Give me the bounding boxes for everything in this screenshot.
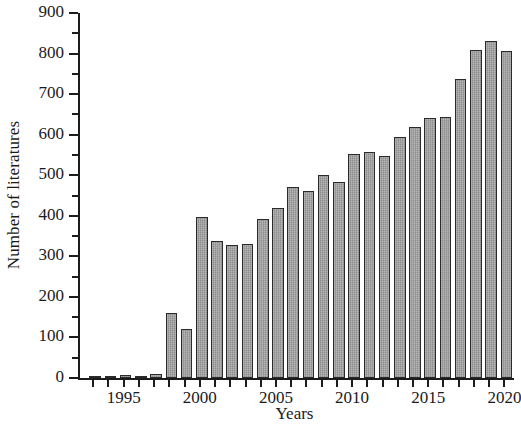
bar-2015 xyxy=(424,118,436,378)
x-axis-tick-2016 xyxy=(442,380,444,387)
x-axis-tick-2006 xyxy=(290,380,292,387)
y-axis-tick-400: 400 xyxy=(69,215,78,217)
y-axis-tick-300: 300 xyxy=(69,255,78,257)
y-axis-tick-label: 600 xyxy=(39,125,65,142)
x-axis-tick-2004 xyxy=(260,380,262,387)
y-axis-tick-label: 500 xyxy=(39,165,65,182)
x-axis-tick-2007 xyxy=(305,380,307,387)
y-axis-tick-label: 900 xyxy=(39,3,65,20)
bar-1998 xyxy=(166,313,178,378)
y-axis-tick-800: 800 xyxy=(69,53,78,55)
x-axis-line xyxy=(78,378,514,380)
bar-1995 xyxy=(120,375,132,378)
y-axis-title: Number of literatures xyxy=(0,0,28,390)
bar-1993 xyxy=(89,376,101,379)
bar-2002 xyxy=(226,245,238,378)
x-axis-title: Years xyxy=(75,404,514,424)
bar-1999 xyxy=(181,329,193,378)
bar-series xyxy=(80,13,514,378)
x-axis-tick-2019 xyxy=(488,380,490,387)
x-axis-tick-1999 xyxy=(184,380,186,387)
x-axis-tick-2020 xyxy=(503,380,505,387)
y-axis-tick-label: 0 xyxy=(56,368,65,385)
x-axis-tick-1993 xyxy=(92,380,94,387)
bar-2011 xyxy=(364,152,376,378)
x-axis-tick-2001 xyxy=(214,380,216,387)
y-axis-tick-200: 200 xyxy=(69,296,78,298)
bar-2006 xyxy=(287,187,299,378)
bar-2016 xyxy=(440,117,452,378)
x-axis-tick-2005 xyxy=(275,380,277,387)
x-axis-title-text: Years xyxy=(276,404,314,423)
bar-2010 xyxy=(348,154,360,378)
x-axis-tick-2000 xyxy=(199,380,201,387)
y-axis-tick-label: 400 xyxy=(39,206,65,223)
x-axis-tick-2012 xyxy=(382,380,384,387)
bar-2005 xyxy=(272,208,284,378)
bar-2000 xyxy=(196,217,208,378)
bar-2008 xyxy=(318,175,330,378)
y-axis-tick-label: 100 xyxy=(39,328,65,345)
y-axis-tick-label: 700 xyxy=(39,84,65,101)
x-axis-tick-2002 xyxy=(229,380,231,387)
y-axis-tick-label: 200 xyxy=(39,287,65,304)
x-axis-tick-1996 xyxy=(138,380,140,387)
bar-1994 xyxy=(105,376,117,379)
y-axis-tick-label: 300 xyxy=(39,246,65,263)
x-axis-tick-1997 xyxy=(153,380,155,387)
y-axis-minor-tick-650 xyxy=(72,113,78,115)
y-axis-minor-tick-550 xyxy=(72,154,78,156)
y-axis-tick-500: 500 xyxy=(69,174,78,176)
x-axis-tick-2018 xyxy=(473,380,475,387)
bar-1997 xyxy=(150,374,162,378)
x-axis-tick-2013 xyxy=(397,380,399,387)
bar-2017 xyxy=(455,79,467,378)
bar-2014 xyxy=(409,127,421,378)
y-axis-minor-tick-50 xyxy=(72,357,78,359)
x-axis-tick-2011 xyxy=(366,380,368,387)
y-axis-tick-label: 800 xyxy=(39,44,65,61)
y-axis-tick-100: 100 xyxy=(69,336,78,338)
y-axis-minor-tick-850 xyxy=(72,32,78,34)
y-axis-tick-900: 900 xyxy=(69,12,78,14)
y-axis-title-text: Number of literatures xyxy=(4,121,24,269)
x-axis-tick-2010 xyxy=(351,380,353,387)
bar-2020 xyxy=(501,51,513,378)
x-axis-tick-1995 xyxy=(123,380,125,387)
y-axis-tick-700: 700 xyxy=(69,93,78,95)
x-axis-tick-1998 xyxy=(168,380,170,387)
y-axis-minor-tick-750 xyxy=(72,73,78,75)
y-axis-tick-0: 0 xyxy=(69,377,78,379)
bar-2007 xyxy=(303,191,315,378)
y-axis-minor-tick-350 xyxy=(72,235,78,237)
x-axis-tick-1994 xyxy=(107,380,109,387)
x-axis-tick-2009 xyxy=(336,380,338,387)
bar-2018 xyxy=(470,50,482,378)
x-axis-tick-2008 xyxy=(321,380,323,387)
y-axis-tick-600: 600 xyxy=(69,134,78,136)
y-axis-minor-tick-250 xyxy=(72,276,78,278)
bar-2009 xyxy=(333,182,345,378)
bar-2004 xyxy=(257,219,269,378)
x-axis-tick-2014 xyxy=(412,380,414,387)
x-axis-tick-2015 xyxy=(427,380,429,387)
bar-2012 xyxy=(379,156,391,378)
bar-2013 xyxy=(394,137,406,378)
x-axis-tick-2017 xyxy=(458,380,460,387)
y-axis-minor-tick-150 xyxy=(72,316,78,318)
x-axis-tick-2003 xyxy=(245,380,247,387)
bar-2019 xyxy=(485,41,497,378)
plot-area: 0100200300400500600700800900 19952000200… xyxy=(78,13,514,380)
bar-2003 xyxy=(242,244,254,378)
y-axis-minor-tick-450 xyxy=(72,195,78,197)
bar-1996 xyxy=(135,376,147,379)
bar-2001 xyxy=(211,241,223,378)
